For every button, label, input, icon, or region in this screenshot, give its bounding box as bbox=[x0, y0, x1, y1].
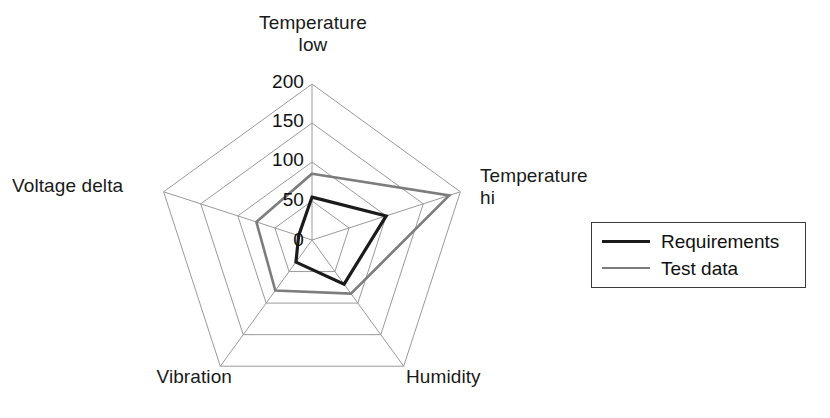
legend-item-test-data: Test data bbox=[602, 255, 738, 281]
legend-label-test-data: Test data bbox=[661, 259, 738, 278]
tick-label-0: 0 bbox=[274, 230, 304, 249]
axis-label-humidity: Humidity bbox=[406, 366, 536, 388]
legend-item-requirements: Requirements bbox=[602, 228, 779, 254]
radar-chart: Temperature low Temperature hi Humidity … bbox=[0, 0, 830, 418]
chart-legend: Requirements Test data bbox=[591, 222, 806, 288]
legend-label-requirements: Requirements bbox=[661, 232, 779, 251]
radar-grid bbox=[164, 84, 461, 366]
tick-label-200: 200 bbox=[248, 72, 304, 91]
tick-label-100: 100 bbox=[248, 150, 304, 169]
legend-swatch-requirements-icon bbox=[602, 240, 650, 243]
radar-chart-svg bbox=[0, 0, 830, 418]
axis-label-voltage-delta: Voltage delta bbox=[12, 175, 150, 197]
tick-label-150: 150 bbox=[248, 111, 304, 130]
axis-label-temperature-low: Temperature low bbox=[228, 12, 398, 56]
tick-label-50: 50 bbox=[255, 190, 304, 209]
axis-label-temperature-hi: Temperature hi bbox=[480, 165, 650, 209]
axis-label-vibration: Vibration bbox=[112, 366, 232, 388]
legend-swatch-test-data-icon bbox=[602, 267, 650, 269]
